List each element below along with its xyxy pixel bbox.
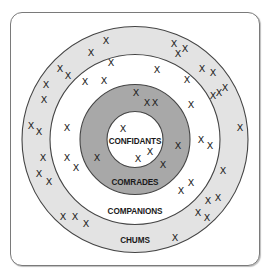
person-marker-chums: X bbox=[220, 165, 227, 176]
person-marker-companions: X bbox=[207, 140, 214, 151]
person-marker-confidants: X bbox=[135, 153, 142, 164]
person-marker-chums: X bbox=[182, 43, 189, 54]
person-marker-companions: X bbox=[154, 64, 161, 75]
person-marker-chums: X bbox=[237, 122, 244, 133]
person-marker-chums: X bbox=[36, 168, 43, 179]
person-marker-chums: X bbox=[204, 212, 211, 223]
person-marker-chums: X bbox=[65, 70, 72, 81]
ring-label-confidants: CONFIDANTS bbox=[109, 137, 162, 146]
person-marker-chums: X bbox=[36, 126, 43, 137]
person-marker-chums: X bbox=[195, 207, 202, 218]
person-marker-chums: X bbox=[215, 192, 222, 203]
person-marker-chums: X bbox=[222, 82, 229, 93]
person-marker-comrades: X bbox=[133, 87, 140, 98]
person-marker-companions: X bbox=[184, 74, 191, 85]
person-marker-comrades: X bbox=[94, 152, 101, 163]
ring-label-comrades: COMRADES bbox=[112, 178, 160, 187]
person-marker-comrades: X bbox=[160, 159, 167, 170]
person-marker-companions: X bbox=[188, 99, 195, 110]
person-marker-companions: X bbox=[198, 134, 205, 145]
concentric-circles-diagram: CHUMSCOMPANIONSCOMRADESCONFIDANTS XXXXXX… bbox=[0, 0, 272, 278]
person-marker-chums: X bbox=[41, 94, 48, 105]
person-marker-chums: X bbox=[103, 35, 110, 46]
person-marker-comrades: X bbox=[144, 97, 151, 108]
person-marker-companions: X bbox=[82, 76, 89, 87]
person-marker-chums: X bbox=[210, 67, 217, 78]
person-marker-companions: X bbox=[178, 185, 185, 196]
ring-label-chums: CHUMS bbox=[120, 236, 150, 245]
person-marker-companions: X bbox=[73, 162, 80, 173]
person-marker-comrades: X bbox=[175, 140, 182, 151]
person-marker-confidants: X bbox=[147, 146, 154, 157]
person-marker-companions: X bbox=[188, 177, 195, 188]
person-marker-chums: X bbox=[175, 48, 182, 59]
person-marker-chums: X bbox=[57, 63, 64, 74]
person-marker-chums: X bbox=[46, 176, 53, 187]
person-marker-companions: X bbox=[64, 122, 71, 133]
person-marker-chums: X bbox=[43, 79, 50, 90]
person-marker-companions: X bbox=[101, 75, 108, 86]
person-marker-companions: X bbox=[64, 152, 71, 163]
person-marker-chums: X bbox=[28, 120, 35, 131]
person-marker-chums: X bbox=[199, 63, 206, 74]
person-marker-chums: X bbox=[60, 211, 67, 222]
person-marker-chums: X bbox=[172, 232, 179, 243]
person-marker-comrades: X bbox=[152, 97, 159, 108]
person-marker-companions: X bbox=[40, 152, 47, 163]
person-marker-companions: X bbox=[108, 57, 115, 68]
person-marker-chums: X bbox=[83, 218, 90, 229]
person-marker-chums: X bbox=[205, 195, 212, 206]
person-marker-chums: X bbox=[72, 211, 79, 222]
person-marker-chums: X bbox=[88, 47, 95, 58]
ring-label-companions: COMPANIONS bbox=[108, 207, 163, 216]
person-marker-confidants: X bbox=[120, 123, 127, 134]
